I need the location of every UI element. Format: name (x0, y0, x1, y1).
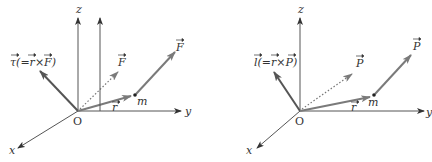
angular-momentum-figure-body: z y x O m r P P l(=r×P) (246, 3, 432, 157)
mass-label: m (368, 96, 378, 109)
origin-label: O (73, 115, 82, 128)
momentum-vector (375, 55, 411, 94)
x-axis (18, 111, 78, 148)
position-vector (300, 97, 370, 111)
x-axis-label: x (246, 144, 253, 157)
x-axis-label: x (9, 144, 16, 157)
force-vector (136, 52, 175, 94)
origin-label: O (295, 115, 304, 128)
momentum-label: P (412, 40, 421, 53)
torque-vector (40, 71, 78, 111)
diagram-canvas: z y x O m r F F τ(=r×F) z y x O (0, 0, 432, 162)
force-label: F (175, 41, 184, 54)
angular-momentum-label: l(=r×P) (254, 56, 297, 69)
position-label: r (351, 101, 357, 114)
y-axis-label: y (184, 105, 192, 118)
angular-momentum-vector (274, 72, 300, 111)
shifted-momentum-vector (302, 74, 352, 109)
x-axis (257, 111, 300, 148)
position-label: r (112, 101, 118, 114)
z-axis-label: z (75, 3, 82, 16)
shifted-momentum-label: P (355, 57, 364, 70)
torque-label: τ(=r×F) (10, 56, 56, 69)
z-axis-label: z (297, 3, 304, 16)
y-axis-label: y (425, 106, 432, 119)
mass-label: m (137, 95, 147, 108)
shifted-force-label: F (117, 56, 126, 69)
